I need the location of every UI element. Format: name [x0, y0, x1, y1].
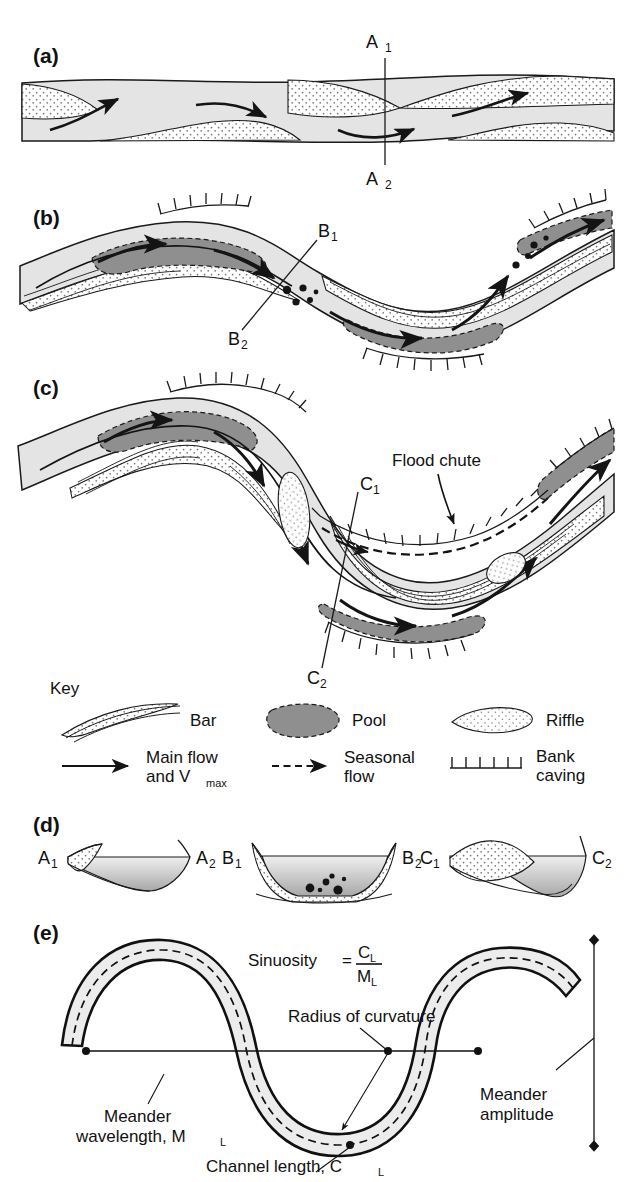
label-c2: C — [307, 668, 320, 688]
label-b1: B — [318, 221, 330, 241]
label-b2-sub: 2 — [241, 338, 248, 352]
panel-a-label: (a) — [33, 44, 59, 67]
label-a2-sub: 2 — [385, 178, 392, 192]
channel-length-sub: L — [378, 1166, 384, 1178]
wavelength-label-1: Meander — [104, 1107, 171, 1126]
wavelength-endpoint-right — [474, 1047, 482, 1055]
channel-length-label: Channel length, C — [206, 1157, 342, 1176]
sinuosity-denominator-sub: L — [371, 976, 377, 988]
label-b1-sub: 1 — [331, 230, 338, 244]
panel-c-label: (c) — [33, 376, 59, 399]
key-label-bankcaving: Bank — [536, 747, 575, 766]
label-d-c2-sub: 2 — [605, 857, 612, 871]
key-label-mainflow: Main flow — [146, 748, 219, 767]
label-d-b2: B — [402, 848, 414, 868]
panel-e-label: (e) — [33, 921, 59, 944]
key-label-seasonal-2: flow — [344, 767, 375, 786]
label-b2: B — [228, 329, 240, 349]
label-d-a2-sub: 2 — [209, 857, 216, 871]
label-c1: C — [360, 474, 373, 494]
sinuosity-numerator-sub: L — [370, 952, 376, 964]
panel-b-label: (b) — [33, 206, 60, 229]
key-label-mainflow-2: and V — [146, 767, 191, 786]
label-d-c2: C — [592, 848, 605, 868]
amplitude-label-1: Meander — [480, 1085, 547, 1104]
sinuosity-numerator: C — [358, 943, 370, 962]
panel-d-label: (d) — [33, 813, 60, 836]
wavelength-endpoint-left — [82, 1047, 90, 1055]
sinuosity-equals: = — [342, 951, 352, 970]
key-label-riffle: Riffle — [546, 711, 584, 730]
label-d-b1-sub: 1 — [235, 857, 242, 871]
key-label-seasonal: Seasonal — [344, 748, 415, 767]
flood-chute-label: Flood chute — [392, 451, 481, 470]
label-c1-sub: 1 — [373, 483, 380, 497]
label-a2: A — [366, 169, 378, 189]
label-a1-sub: 1 — [385, 41, 392, 55]
radius-of-curvature-label: Radius of curvature — [288, 1007, 435, 1026]
key-label-vmax-sub: max — [206, 777, 227, 789]
label-d-a1-sub: 1 — [51, 857, 58, 871]
wavelength-label-sub: L — [220, 1136, 226, 1148]
key-title: Key — [50, 679, 80, 698]
channel-length-point — [346, 1141, 354, 1149]
figure-root: (a) A 1 A 2 (b) — [0, 0, 635, 1182]
label-a1: A — [366, 32, 378, 52]
key-label-pool: Pool — [352, 711, 386, 730]
key-pool-symbol — [267, 704, 339, 737]
wavelength-label-2: wavelength, M — [75, 1127, 186, 1146]
label-d-c1-sub: 1 — [433, 857, 440, 871]
label-d-b1: B — [222, 848, 234, 868]
amplitude-label-2: amplitude — [480, 1105, 554, 1124]
label-d-a2: A — [196, 848, 208, 868]
label-d-a1: A — [38, 848, 50, 868]
sinuosity-denominator: M — [357, 967, 371, 986]
sinuosity-label: Sinuosity — [248, 951, 317, 970]
key-label-bankcaving-2: caving — [536, 766, 585, 785]
label-c2-sub: 2 — [320, 677, 327, 691]
label-d-c1: C — [420, 848, 433, 868]
key-label-bar: Bar — [190, 711, 217, 730]
